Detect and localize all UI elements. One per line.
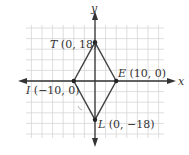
x-axis-arrow-right (167, 78, 176, 84)
label-E-letter: E (117, 67, 126, 80)
y-axis-arrow-down (92, 138, 98, 147)
label-L: L (0, −18) (97, 118, 155, 131)
y-axis-label: y (90, 2, 98, 15)
stray-mark (78, 106, 82, 110)
vertex-L (93, 118, 97, 122)
label-I: I (−10, 0) (25, 84, 80, 97)
label-T: T (0, 18) (50, 38, 97, 51)
coordinate-plane: x y T (0, 18) E (10, 0) L (0, −18) I (−1… (0, 0, 189, 155)
label-I-coords: (−10, 0) (30, 84, 79, 97)
label-T-coords: (0, 18) (57, 38, 97, 51)
vertex-I (72, 79, 76, 83)
label-E: E (10, 0) (117, 67, 166, 80)
label-L-letter: L (97, 118, 105, 131)
label-L-coords: (0, −18) (105, 118, 154, 131)
x-axis-label: x (178, 75, 185, 88)
label-E-coords: (10, 0) (126, 67, 166, 80)
